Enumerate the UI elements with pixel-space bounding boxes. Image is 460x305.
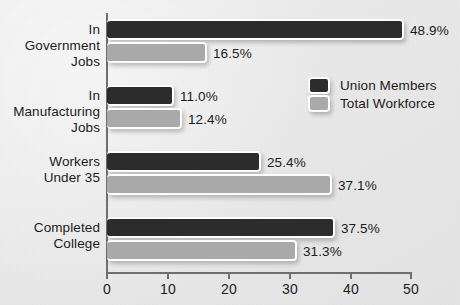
bar-chart: 0 10 20 30 40 50 In Government Jobs In M… [0, 0, 460, 305]
x-axis-tick-label-40: 40 [343, 281, 359, 297]
x-axis-tick-label-0: 0 [103, 281, 111, 297]
x-axis-tick-label-50: 50 [403, 281, 419, 297]
x-axis-tick-20 [228, 272, 230, 279]
legend-label-union-members: Union Members [340, 78, 437, 93]
bar-manufacturing-total-workforce [107, 108, 182, 129]
bar-under35-total-workforce [107, 174, 332, 195]
legend-label-total-workforce: Total Workforce [340, 96, 435, 111]
legend: Union Members Total Workforce [308, 76, 437, 112]
category-label-under35: Workers Under 35 [44, 154, 100, 186]
legend-swatch-union-members [308, 77, 330, 94]
x-axis-tick-50 [410, 272, 412, 279]
x-axis-tick-30 [289, 272, 291, 279]
category-label-manufacturing: In Manufacturing Jobs [13, 88, 100, 136]
bar-value-under35-total-workforce: 37.1% [338, 178, 377, 193]
bar-value-government-total-workforce: 16.5% [213, 46, 252, 61]
x-axis-line [106, 272, 411, 274]
plot-area: 0 10 20 30 40 50 In Government Jobs In M… [0, 0, 460, 305]
x-axis-tick-10 [167, 272, 169, 279]
bar-value-manufacturing-union-members: 11.0% [180, 89, 218, 104]
legend-item-total-workforce: Total Workforce [308, 94, 437, 112]
legend-item-union-members: Union Members [308, 76, 437, 94]
category-label-college: Completed College [34, 220, 100, 252]
category-label-government: In Government Jobs [25, 22, 100, 70]
bar-manufacturing-union-members [107, 85, 174, 106]
bar-value-under35-union-members: 25.4% [267, 155, 306, 170]
x-axis-tick-label-30: 30 [282, 281, 298, 297]
legend-swatch-total-workforce [308, 95, 330, 112]
x-axis-tick-label-20: 20 [221, 281, 237, 297]
bar-government-union-members [107, 19, 404, 40]
x-axis-tick-label-10: 10 [160, 281, 176, 297]
bar-value-college-total-workforce: 31.3% [303, 244, 342, 259]
x-axis-tick-40 [350, 272, 352, 279]
bar-under35-union-members [107, 151, 261, 172]
x-axis-tick-0 [106, 272, 108, 279]
bar-government-total-workforce [107, 42, 207, 63]
bar-college-total-workforce [107, 240, 297, 261]
bar-value-college-union-members: 37.5% [341, 221, 380, 236]
bar-value-government-union-members: 48.9% [410, 23, 449, 38]
bar-value-manufacturing-total-workforce: 12.4% [188, 112, 227, 127]
bar-college-union-members [107, 217, 335, 238]
